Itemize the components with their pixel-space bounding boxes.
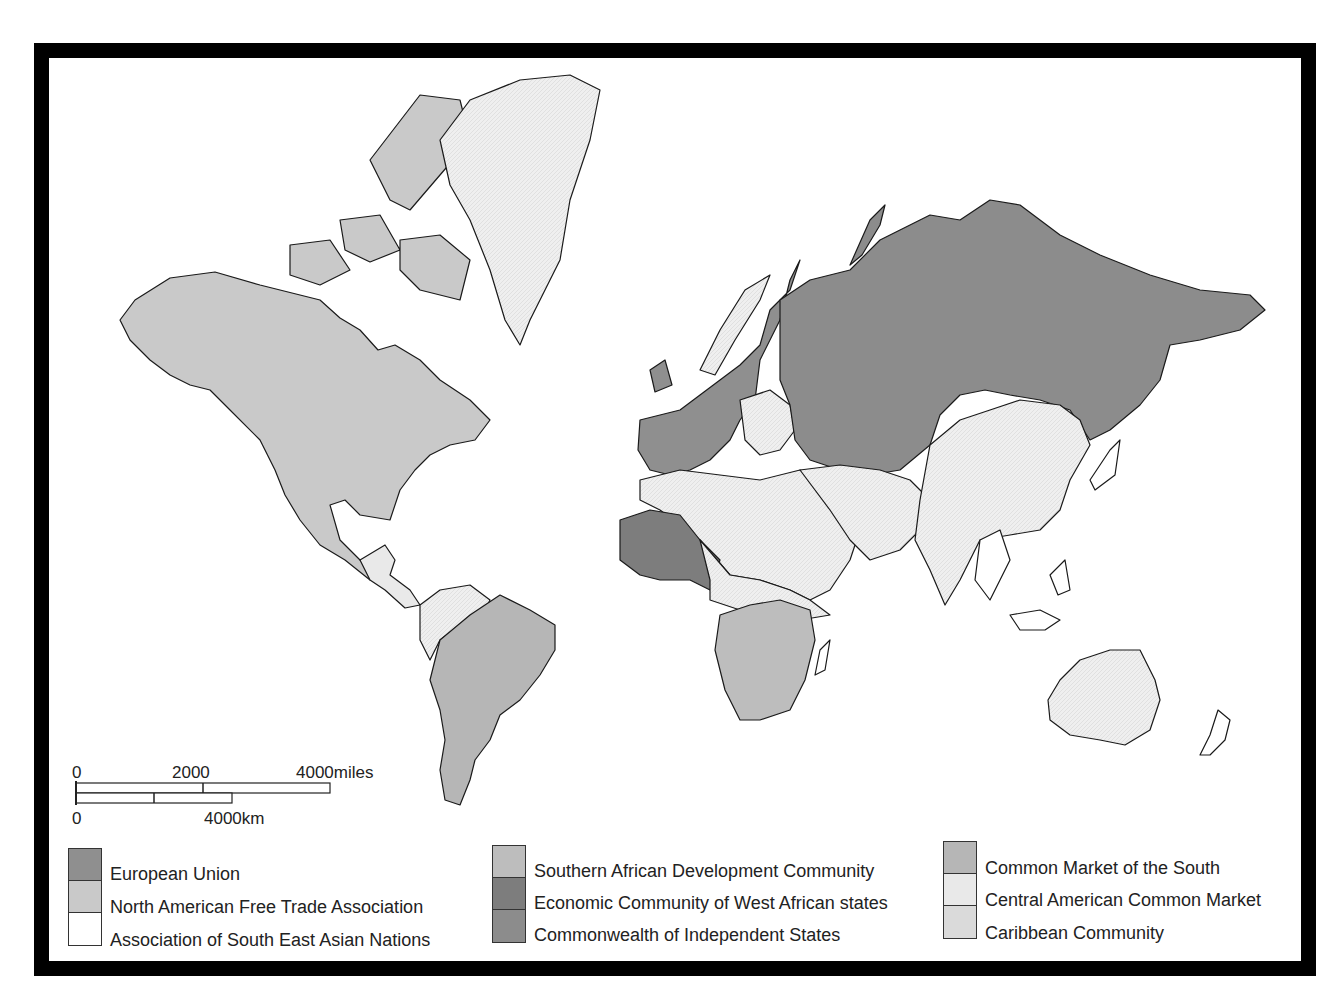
swatch-asean	[69, 913, 101, 945]
legend-label-cacm: Central American Common Market	[985, 891, 1261, 909]
legend-label-mercosur: Common Market of the South	[985, 859, 1220, 877]
swatch-cacm	[944, 874, 976, 906]
swatch-european-union	[69, 849, 101, 881]
legend-label-asean: Association of South East Asian Nations	[110, 931, 430, 949]
scale-km-4000: 4000km	[204, 810, 264, 827]
legend-swatch-stack	[68, 848, 102, 946]
map-frame	[34, 43, 1316, 976]
scale-bar-graphic	[75, 781, 335, 807]
region-central-america	[360, 545, 420, 608]
region-greenland	[440, 75, 600, 345]
scale-bar: 0 2000 4000miles 0 4000km	[40, 718, 370, 798]
region-madagascar	[815, 640, 830, 675]
legend-swatch-stack	[492, 845, 526, 943]
region-east-europe	[740, 390, 795, 455]
swatch-nafta	[69, 881, 101, 913]
region-japan	[1090, 440, 1120, 490]
swatch-caricom	[944, 906, 976, 938]
scale-miles-4000: 4000miles	[296, 764, 374, 781]
legend-label-nafta: North American Free Trade Association	[110, 898, 423, 916]
region-new-zealand	[1200, 710, 1230, 755]
region-sadc	[715, 600, 815, 720]
region-arctic-canada	[290, 95, 470, 300]
legend-label-european-union: European Union	[110, 865, 240, 883]
swatch-ecowas	[493, 878, 525, 910]
legend-label-ecowas: Economic Community of West African state…	[534, 894, 888, 912]
swatch-mercosur	[944, 842, 976, 874]
legend-label-caricom: Caribbean Community	[985, 924, 1164, 942]
swatch-cis	[493, 910, 525, 942]
legend-label-sadc: Southern African Development Community	[534, 862, 874, 880]
swatch-sadc	[493, 846, 525, 878]
legend-label-cis: Commonwealth of Independent States	[534, 926, 840, 944]
legend-swatch-stack	[943, 841, 977, 939]
region-nafta	[120, 272, 490, 580]
region-australia	[1048, 650, 1160, 745]
scale-miles-2000: 2000	[172, 764, 210, 781]
region-asean	[975, 530, 1070, 630]
scale-km-0: 0	[72, 810, 81, 827]
scale-miles-0: 0	[72, 764, 81, 781]
